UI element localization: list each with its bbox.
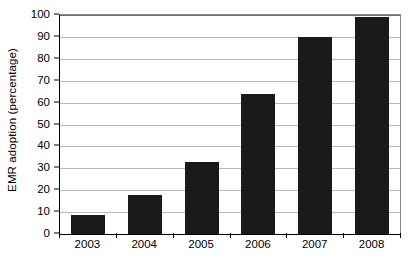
y-axis-title-text: EMR adoption (percentage) (6, 48, 18, 192)
bar-chart-figure: EMR adoption (percentage) 01020304050607… (0, 0, 414, 266)
x-tick-label: 2005 (188, 238, 214, 258)
y-tick-label: 70 (37, 74, 50, 86)
bar-2005 (185, 162, 219, 234)
x-tick-label: 2006 (245, 238, 271, 258)
y-tick-label: 60 (37, 96, 50, 108)
bar-2007 (298, 37, 332, 234)
x-tick-label: 2007 (302, 238, 328, 258)
bar-2003 (71, 215, 105, 234)
bar-2004 (128, 195, 162, 234)
y-tick-label: 80 (37, 52, 50, 64)
y-axis-title: EMR adoption (percentage) (0, 0, 24, 240)
y-tick-label: 50 (37, 118, 50, 130)
y-tick-label: 30 (37, 161, 50, 173)
x-tick-label: 2003 (75, 238, 101, 258)
bar-series (60, 15, 400, 234)
x-tick-label: 2008 (359, 238, 385, 258)
y-axis-tick-labels: 0102030405060708090100 (24, 14, 54, 233)
x-axis-tick-labels: 200320042005200620072008 (59, 238, 400, 258)
y-tick-label: 20 (37, 183, 50, 195)
y-tick-label: 90 (37, 30, 50, 42)
x-tick-label: 2004 (131, 238, 157, 258)
y-tick-label: 40 (37, 139, 50, 151)
x-tick-mark (400, 233, 401, 238)
y-tick-label: 10 (37, 205, 50, 217)
y-tick-label: 100 (31, 8, 50, 20)
bar-2008 (355, 17, 389, 234)
y-tick-label: 0 (44, 227, 50, 239)
bar-2006 (241, 94, 275, 234)
plot-area (59, 14, 401, 235)
